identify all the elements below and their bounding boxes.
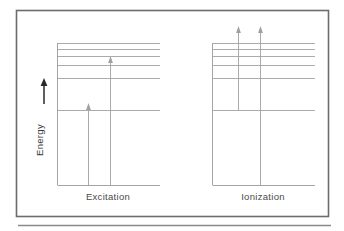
up-arrow-icon bbox=[41, 78, 48, 86]
panel-ionization: Ionization bbox=[213, 26, 316, 202]
ionization-transition-1 bbox=[236, 26, 241, 110]
energy-axis-group: Energy bbox=[34, 78, 47, 156]
panel-caption-ionization: Ionization bbox=[241, 191, 285, 202]
figure-root: Energy Excitati bbox=[0, 0, 344, 231]
energy-axis-label: Energy bbox=[34, 124, 45, 156]
up-arrow-icon bbox=[108, 56, 113, 63]
up-arrow-icon bbox=[236, 26, 241, 33]
energy-level-diagram: Energy Excitati bbox=[0, 0, 344, 231]
excitation-transition-1 bbox=[86, 103, 91, 185]
panel-caption-excitation: Excitation bbox=[86, 191, 130, 202]
panel-excitation: Excitation bbox=[58, 43, 161, 202]
up-arrow-icon bbox=[86, 103, 91, 110]
up-arrow-icon bbox=[258, 26, 263, 33]
excitation-transition-2 bbox=[108, 56, 113, 185]
